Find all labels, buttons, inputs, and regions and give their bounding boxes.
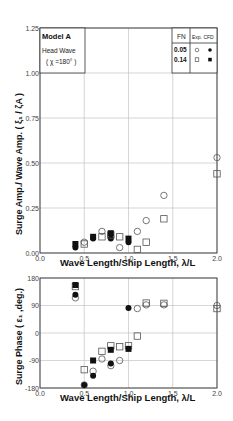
y-tick-label: 90 <box>31 302 39 309</box>
filled-circle-point <box>90 373 96 379</box>
filled-square-point <box>72 241 78 247</box>
legend-fn-005: 0.05 <box>174 46 187 53</box>
open-square-point <box>134 333 140 339</box>
y-tick-label: 0.75 <box>25 115 39 122</box>
filled-circle-point <box>108 236 114 242</box>
y-tick-label: 0 <box>35 330 39 337</box>
open-square-point <box>99 348 105 354</box>
filled-square-icon <box>208 58 212 62</box>
filled-square-point <box>108 230 114 236</box>
open-square-icon <box>195 58 199 62</box>
filled-square-point <box>90 234 96 240</box>
legend-exp-cfd-header: Exp. CFD <box>192 34 214 40</box>
annotation-box: Model A Head Wave ( χ =180° ) <box>40 28 85 73</box>
x-tick-label: 2.0 <box>212 255 222 262</box>
open-square-point <box>134 246 140 252</box>
surge-chart: 0.00.51.01.52.00.000.250.500.751.001.25 … <box>0 0 233 421</box>
filled-circle-icon <box>208 48 212 52</box>
open-square-point <box>116 234 122 240</box>
model-label: Model A <box>42 32 71 41</box>
y-tick-label: 0.25 <box>25 205 39 212</box>
surge-phase-plot: 0.00.51.01.52.0-180-90090180 <box>25 275 222 398</box>
open-circle-icon <box>195 48 199 52</box>
x-tick-label: 2.0 <box>212 390 222 397</box>
filled-circle-point <box>81 382 87 388</box>
open-circle-point <box>134 228 140 234</box>
y-tick-label: -180 <box>25 385 39 392</box>
open-circle-point <box>161 302 167 308</box>
open-circle-point <box>99 356 105 362</box>
filled-square-point <box>126 236 132 242</box>
open-square-point <box>143 239 149 245</box>
filled-square-point <box>90 358 96 364</box>
open-circle-point <box>161 192 167 198</box>
open-square-point <box>116 344 122 350</box>
filled-circle-point <box>72 292 78 298</box>
y-tick-label: 1.00 <box>25 70 39 77</box>
bottom-x-axis-label: Wave Length/Ship Length, λ/L <box>60 392 195 403</box>
open-circle-point <box>143 302 149 308</box>
filled-circle-point <box>126 305 132 311</box>
top-x-axis-label: Wave Length/Ship Length, λ/L <box>60 257 195 268</box>
filled-circle-point <box>108 361 114 367</box>
legend-fn-014: 0.14 <box>174 56 187 63</box>
legend: FN Exp. CFD 0.05 0.14 <box>172 28 217 73</box>
filled-square-point <box>126 346 132 352</box>
filled-square-point <box>108 347 114 353</box>
heading-label: ( χ =180° ) <box>46 58 76 66</box>
open-circle-point <box>116 244 122 250</box>
open-circle-point <box>143 217 149 223</box>
y-tick-label: 180 <box>27 275 39 282</box>
wave-label: Head Wave <box>42 47 76 54</box>
open-circle-point <box>134 305 140 311</box>
y-tick-label: 1.25 <box>25 25 39 32</box>
y-tick-label: -90 <box>29 357 39 364</box>
open-square-point <box>161 216 167 222</box>
legend-fn-header: FN <box>177 33 186 40</box>
y-tick-label: 0.00 <box>25 250 39 257</box>
y-tick-label: 0.50 <box>25 160 39 167</box>
bottom-y-axis-label: Surge Phase ( ε₁ ,deg.) <box>14 288 24 385</box>
filled-square-point <box>72 282 78 288</box>
top-y-axis-label: Surge Amp./ Wave Amp. ( ξ₁ / ζA ) <box>14 93 24 235</box>
